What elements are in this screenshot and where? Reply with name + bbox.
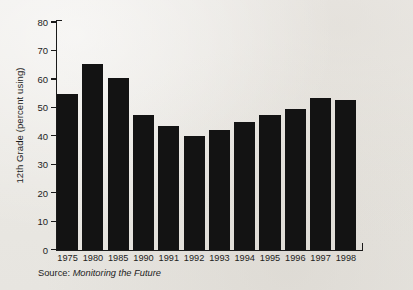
- bar: [133, 115, 154, 250]
- y-axis-tick-label: 30: [2, 159, 48, 170]
- y-axis-tick-label: 0: [2, 244, 48, 255]
- bar: [158, 126, 179, 250]
- bar: [184, 136, 205, 250]
- x-axis-end-cap: [362, 243, 363, 250]
- y-axis-tick-label: 20: [2, 187, 48, 198]
- bar: [259, 115, 280, 250]
- bar: [234, 122, 255, 250]
- y-axis-title: 12th Grade (percent using): [10, 0, 28, 250]
- bar: [82, 64, 103, 250]
- y-axis-tick-label: 80: [2, 17, 48, 28]
- bar: [108, 78, 129, 250]
- bar: [310, 98, 331, 250]
- source-note-label: Source:: [38, 268, 73, 278]
- source-note: Source: Monitoring the Future: [38, 268, 161, 278]
- x-axis-tick-label: 1998: [326, 253, 366, 263]
- source-note-title: Monitoring the Future: [73, 268, 161, 278]
- plot-area: [57, 22, 360, 250]
- y-axis-tick-label: 50: [2, 102, 48, 113]
- y-axis-tick-label: 70: [2, 45, 48, 56]
- y-axis-tick-label: 40: [2, 130, 48, 141]
- bar: [335, 100, 356, 251]
- bar-chart-figure: 12th Grade (percent using) 0102030405060…: [0, 0, 413, 290]
- bar: [285, 109, 306, 250]
- y-axis-tick-label: 60: [2, 73, 48, 84]
- y-axis-tick-label: 10: [2, 216, 48, 227]
- bar: [209, 130, 230, 250]
- bar: [57, 94, 78, 250]
